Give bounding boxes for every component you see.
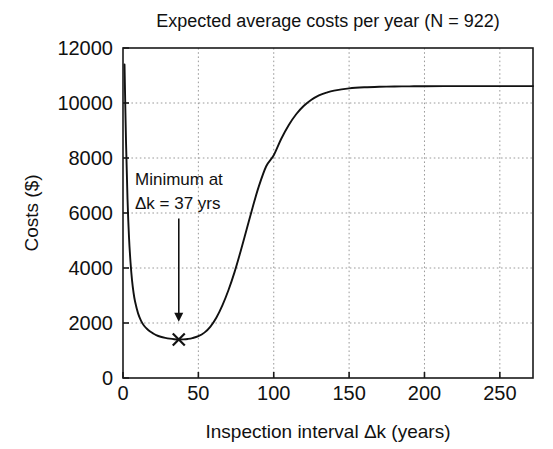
- chart-title: Expected average costs per year (N = 922…: [156, 11, 500, 31]
- y-tick-label: 4000: [69, 257, 114, 279]
- x-tick-label: 0: [117, 382, 128, 404]
- expected-average-costs-chart: Expected average costs per year (N = 922…: [0, 0, 553, 449]
- x-tick-label: 150: [332, 382, 365, 404]
- y-tick-label: 12000: [57, 37, 113, 59]
- y-tick-label: 2000: [69, 312, 114, 334]
- x-tick-label: 200: [408, 382, 441, 404]
- y-axis-title: Costs ($): [21, 174, 42, 251]
- y-tick-label: 0: [102, 367, 113, 389]
- chart-figure: Expected average costs per year (N = 922…: [0, 0, 553, 449]
- x-tick-label: 100: [257, 382, 290, 404]
- x-axis-title: Inspection interval Δk (years): [205, 421, 450, 442]
- x-tick-label: 250: [483, 382, 516, 404]
- y-tick-label: 6000: [69, 202, 114, 224]
- x-tick-label: 50: [187, 382, 209, 404]
- y-tick-label: 8000: [69, 147, 114, 169]
- annotation-line-1: Minimum at: [135, 170, 223, 189]
- annotation-line-2: Δk = 37 yrs: [135, 194, 221, 213]
- y-tick-label: 10000: [57, 92, 113, 114]
